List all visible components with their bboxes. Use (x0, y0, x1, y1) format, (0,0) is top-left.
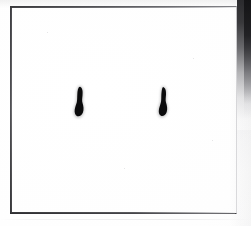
frame-top-rule (10, 6, 237, 8)
right-edge-shadow-fade (237, 130, 251, 226)
bottom-seam-line (0, 219, 251, 220)
dust-speck (124, 168, 125, 169)
dust-speck (212, 140, 213, 141)
dark-spot-left (68, 84, 92, 122)
dust-speck (193, 58, 194, 59)
dust-speck (47, 32, 48, 33)
plate-border (10, 6, 237, 214)
right-edge-shadow-band (237, 0, 251, 140)
dark-spot-right (152, 84, 176, 122)
frame-right-rule (236, 6, 237, 214)
scan-canvas (0, 0, 251, 226)
